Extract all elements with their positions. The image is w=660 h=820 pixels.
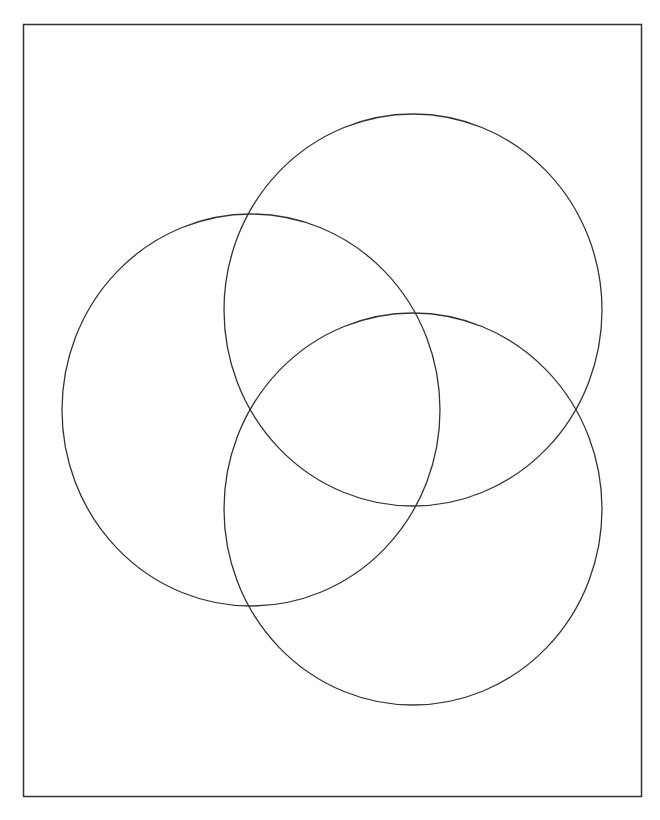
diagram-frame: [24, 25, 642, 797]
venn-diagram-canvas: [0, 0, 660, 820]
